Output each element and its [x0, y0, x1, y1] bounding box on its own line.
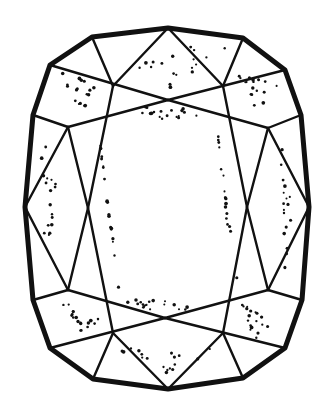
stipple-dots: [40, 46, 292, 375]
facet-line: [268, 290, 302, 300]
facet-line: [223, 333, 243, 378]
facet-line: [68, 127, 88, 208]
facet-line: [68, 208, 88, 290]
facet-line: [50, 65, 168, 100]
facet-line: [223, 207, 247, 333]
gemstone-diagram: [0, 0, 332, 414]
facet-line: [168, 100, 268, 128]
facet-line: [165, 290, 268, 318]
facet-line: [88, 86, 113, 208]
facet-line: [268, 115, 301, 128]
facet-line: [33, 115, 68, 127]
facet-line: [247, 207, 268, 290]
facet-line: [223, 86, 247, 207]
facet-line: [68, 290, 165, 318]
facet-line: [247, 128, 268, 207]
facet-line: [93, 333, 113, 379]
facet-line: [33, 290, 68, 300]
facet-line: [113, 28, 168, 86]
